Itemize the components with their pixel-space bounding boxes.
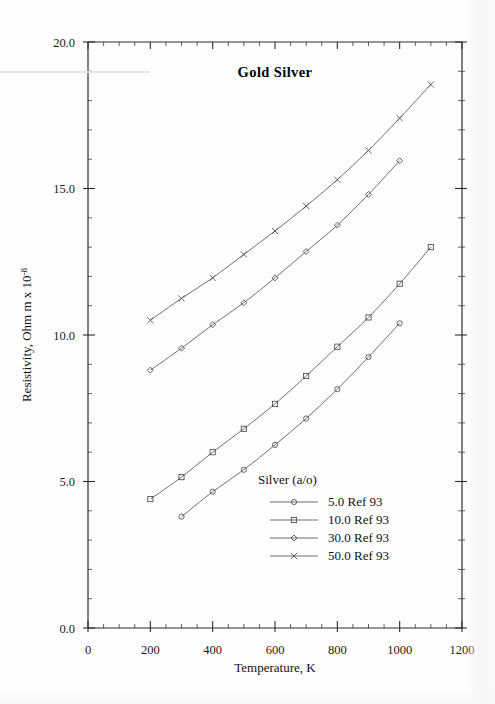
series-curve (150, 161, 399, 370)
y-tick-label: 10.0 (53, 329, 75, 343)
legend-item-label: 5.0 Ref 93 (328, 494, 383, 509)
plot-frame (88, 42, 462, 628)
y-axis-label: Resistivity, Ohm m x 10-8 (19, 267, 34, 402)
y-tick-label: 5.0 (59, 475, 75, 489)
series-diamond (147, 158, 402, 373)
y-tick-label: 20.0 (53, 36, 75, 50)
series-square (148, 245, 434, 502)
x-tick-label: 600 (266, 643, 285, 657)
y-axis-ticks (83, 42, 467, 628)
data-point-cross (272, 228, 278, 234)
y-axis-tick-labels: 0.05.010.015.020.0 (53, 36, 75, 636)
legend-item-label: 10.0 Ref 93 (328, 512, 389, 527)
data-series-group (147, 81, 434, 519)
resistivity-plot: 020040060080010001200 0.05.010.015.020.0… (0, 0, 495, 704)
series-circle (179, 321, 402, 520)
scanned-page: 020040060080010001200 0.05.010.015.020.0… (0, 0, 495, 704)
y-tick-label: 0.0 (59, 622, 75, 636)
legend-item: 10.0 Ref 93 (270, 512, 389, 527)
data-point-cross (241, 251, 247, 257)
legend-item: 5.0 Ref 93 (270, 494, 383, 509)
y-axis-label-group: Resistivity, Ohm m x 10-8 (19, 267, 34, 402)
x-tick-label: 400 (203, 643, 222, 657)
legend-title: Silver (a/o) (258, 472, 317, 487)
x-tick-label: 0 (85, 643, 91, 657)
x-tick-label: 800 (328, 643, 347, 657)
data-point-cross (303, 203, 309, 209)
legend-item-label: 30.0 Ref 93 (328, 530, 389, 545)
x-tick-label: 1200 (450, 643, 475, 657)
data-point-cross (428, 81, 434, 87)
legend: Silver (a/o)5.0 Ref 9310.0 Ref 9330.0 Re… (258, 472, 389, 563)
series-curve (182, 323, 400, 516)
x-axis-label: Temperature, K (234, 660, 316, 675)
series-cross (147, 81, 434, 323)
x-tick-label: 1000 (387, 643, 412, 657)
y-tick-label: 15.0 (53, 182, 75, 196)
data-point-circle (179, 514, 184, 519)
data-point-cross (147, 317, 153, 323)
data-point-cross (397, 115, 403, 121)
data-point-cross (178, 295, 184, 301)
x-axis-ticks (88, 42, 462, 632)
x-axis-tick-labels: 020040060080010001200 (85, 643, 475, 657)
legend-item-label: 50.0 Ref 93 (328, 548, 389, 563)
data-point-cross (210, 275, 216, 281)
data-point-cross (365, 147, 371, 153)
series-curve (150, 84, 431, 320)
data-point-cross (334, 177, 340, 183)
figure-container: 020040060080010001200 0.05.010.015.020.0… (0, 0, 495, 704)
plot-title: Gold Silver (238, 64, 313, 80)
legend-item: 50.0 Ref 93 (270, 548, 389, 563)
legend-item: 30.0 Ref 93 (270, 530, 389, 545)
series-curve (150, 247, 431, 499)
x-tick-label: 200 (141, 643, 160, 657)
